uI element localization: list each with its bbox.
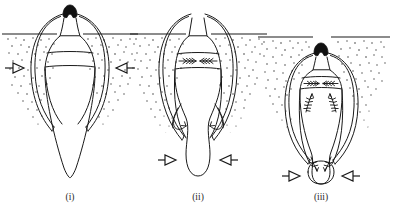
- arm-tip-right-ii: [212, 136, 214, 140]
- inner-flange-left-iii: [299, 90, 310, 164]
- band-arrow-left-iii: [304, 81, 319, 86]
- neck-left-iii: [313, 57, 316, 70]
- left-level-marker-i[interactable]: [5, 63, 24, 73]
- panel-iii: (iii): [258, 37, 390, 203]
- soil-stipple-left-iii: [263, 40, 309, 127]
- flow-arrow-left-ii: [172, 104, 186, 129]
- neck-left-i: [60, 18, 64, 36]
- band-upper-i: [47, 52, 93, 54]
- right-level-marker-iii[interactable]: [342, 171, 360, 181]
- neck-right-i: [76, 18, 80, 36]
- band-arrow-right-iii: [323, 81, 338, 86]
- panel-caption-i: (i): [66, 192, 75, 203]
- panel-caption-ii: (ii): [192, 192, 204, 203]
- band-arrow-left-ii: [179, 58, 196, 63]
- dark-cap-i: [63, 5, 77, 18]
- band-lower-iii: [300, 88, 342, 90]
- inner-flange-left-i: [45, 68, 62, 124]
- flow-arrow-right-ii: [210, 104, 224, 129]
- outer-arm-right-i: [77, 14, 109, 131]
- outer-arm-left-i: [31, 14, 63, 131]
- band-lower-i: [45, 66, 95, 68]
- figure-root: (i): [0, 0, 397, 211]
- right-level-marker-ii[interactable]: [220, 155, 238, 165]
- inner-flange-right-iii: [332, 90, 343, 164]
- band-lower-ii: [175, 68, 221, 70]
- panel-caption-iii: (iii): [314, 192, 328, 203]
- left-level-marker-ii[interactable]: [158, 155, 176, 165]
- burrowing-sequence-diagram: (i): [0, 0, 397, 211]
- left-level-marker-iii[interactable]: [282, 171, 300, 181]
- soil-stipple-right-iii: [337, 40, 385, 127]
- neck-right-iii: [327, 57, 330, 70]
- panel-i: (i): [2, 5, 138, 203]
- band-upper-iii: [302, 77, 340, 79]
- band-upper-ii: [177, 53, 219, 55]
- neck-left-ii: [189, 18, 192, 36]
- leg-branch-arrow-right-iii: [329, 94, 339, 112]
- band-arrow-right-ii: [200, 58, 217, 63]
- inner-flange-right-i: [78, 68, 95, 124]
- right-level-marker-i[interactable]: [116, 63, 135, 73]
- dark-cap-iii: [314, 43, 328, 56]
- panel-ii: (ii): [130, 14, 267, 203]
- leg-branch-arrow-left-iii: [304, 94, 314, 112]
- neck-right-ii: [204, 18, 207, 36]
- arm-tip-left-ii: [182, 136, 184, 140]
- body-outline-ii: [175, 36, 221, 176]
